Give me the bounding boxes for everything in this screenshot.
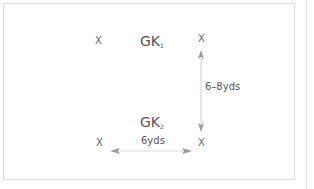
horizontal-double-arrow-icon bbox=[110, 148, 192, 154]
distance-arrows bbox=[0, 0, 314, 189]
vertical-double-arrow-icon bbox=[198, 50, 204, 132]
